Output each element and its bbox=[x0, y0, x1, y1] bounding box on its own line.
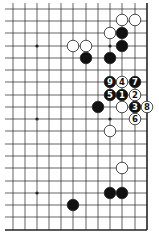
white-stone bbox=[116, 101, 128, 113]
white-stone bbox=[104, 125, 116, 137]
white-stone bbox=[104, 27, 116, 39]
star-point bbox=[35, 191, 38, 194]
move-number: 8 bbox=[144, 102, 150, 112]
white-stone: 6 bbox=[129, 113, 141, 125]
black-stone: 3 bbox=[129, 101, 141, 113]
black-stone bbox=[116, 187, 128, 199]
star-point bbox=[35, 117, 38, 120]
black-stone bbox=[116, 27, 128, 39]
white-stone bbox=[67, 40, 79, 52]
move-number: 9 bbox=[107, 77, 113, 87]
white-stone: 8 bbox=[141, 101, 153, 113]
black-stone bbox=[104, 52, 116, 64]
move-number: 5 bbox=[107, 90, 113, 100]
move-number: 2 bbox=[132, 90, 138, 100]
star-points bbox=[35, 44, 111, 194]
white-stone bbox=[80, 40, 92, 52]
star-point bbox=[108, 117, 111, 120]
white-stone bbox=[116, 162, 128, 174]
black-stone: 1 bbox=[116, 89, 128, 101]
black-stone: 7 bbox=[129, 76, 141, 88]
star-point bbox=[35, 44, 38, 47]
black-stone bbox=[92, 101, 104, 113]
black-stone bbox=[104, 187, 116, 199]
black-stone bbox=[116, 40, 128, 52]
white-stone bbox=[116, 14, 128, 26]
star-point bbox=[108, 44, 111, 47]
white-stone: 2 bbox=[129, 89, 141, 101]
white-stone bbox=[129, 14, 141, 26]
black-stone bbox=[80, 52, 92, 64]
black-stone: 9 bbox=[104, 76, 116, 88]
move-number: 1 bbox=[119, 90, 125, 100]
move-number: 4 bbox=[119, 77, 125, 87]
move-number: 3 bbox=[132, 102, 138, 112]
black-stone: 5 bbox=[104, 89, 116, 101]
white-stone: 4 bbox=[116, 76, 128, 88]
move-number: 7 bbox=[132, 77, 138, 87]
move-number: 6 bbox=[132, 114, 138, 124]
go-board: 947512386 bbox=[0, 0, 159, 246]
black-stone bbox=[67, 199, 79, 211]
